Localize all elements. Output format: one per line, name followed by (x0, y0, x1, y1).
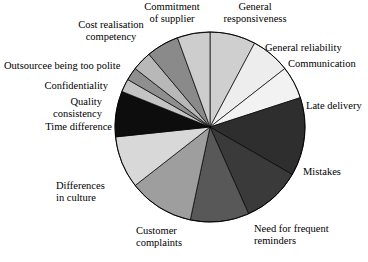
label-cost-realisation-competency: Cost realisation competency (62, 19, 160, 42)
label-customer-complaints: Customer complaints (136, 225, 216, 248)
pie-slice-group (115, 32, 305, 222)
label-outsourcee-being-too-polite: Outsourcee being too polite (4, 60, 128, 72)
label-time-difference: Time difference (34, 121, 112, 133)
label-late-delivery: Late delivery (306, 100, 368, 112)
label-communication: Communication (288, 58, 368, 70)
label-need-for-frequent-reminders: Need for frequent reminders (254, 223, 364, 246)
label-general-responsiveness: General responsiveness (212, 1, 298, 24)
pie-chart-figure: Commitment of supplier General responsiv… (0, 0, 368, 262)
label-general-reliability: General reliability (265, 42, 368, 54)
label-differences-in-culture: Differences in culture (56, 180, 132, 203)
label-quality-consistency: Quality consistency (30, 96, 102, 119)
label-confidentiality: Confidentiality (28, 80, 108, 92)
label-mistakes: Mistakes (303, 166, 363, 178)
